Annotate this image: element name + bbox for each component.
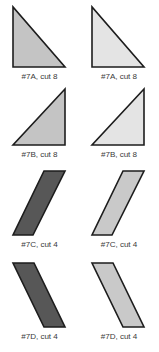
- shape-7a-light: [91, 6, 147, 70]
- piece-group-7c-light: #7C, cut 4: [79, 170, 159, 250]
- right-triangle-shape: [92, 7, 144, 67]
- parallelogram-shape: [13, 171, 65, 235]
- piece-group-7a-dark: #7A, cut 8: [0, 6, 79, 82]
- right-triangle-shape: [13, 89, 65, 145]
- piece-label-7c-light: #7C, cut 4: [101, 240, 137, 250]
- piece-label-7a-dark: #7A, cut 8: [22, 72, 58, 82]
- shape-7d-dark: [12, 262, 68, 330]
- right-triangle-shape: [13, 7, 65, 67]
- piece-label-7a-light: #7A, cut 8: [101, 72, 137, 82]
- piece-label-7d-light: #7D, cut 4: [101, 332, 137, 342]
- parallelogram-shape: [92, 171, 144, 235]
- parallelogram-shape: [92, 263, 144, 327]
- right-triangle-shape: [92, 89, 144, 145]
- shape-7b-light: [91, 88, 147, 148]
- shape-7a-dark: [12, 6, 68, 70]
- piece-group-7c-dark: #7C, cut 4: [0, 170, 79, 250]
- piece-label-7d-dark: #7D, cut 4: [21, 332, 57, 342]
- piece-label-7b-light: #7B, cut 8: [101, 150, 137, 160]
- piece-group-7d-light: #7D, cut 4: [79, 262, 159, 342]
- piece-group-7a-light: #7A, cut 8: [79, 6, 159, 82]
- shape-7c-dark: [12, 170, 68, 238]
- shape-7b-dark: [12, 88, 68, 148]
- shape-7d-light: [91, 262, 147, 330]
- piece-group-7b-light: #7B, cut 8: [79, 88, 159, 160]
- piece-label-7c-dark: #7C, cut 4: [21, 240, 57, 250]
- parallelogram-shape: [13, 263, 65, 327]
- cutting-diagram-sheet: #7A, cut 8 #7A, cut 8 #7B, cut 8 #7B, cu…: [0, 0, 159, 352]
- piece-group-7b-dark: #7B, cut 8: [0, 88, 79, 160]
- shape-7c-light: [91, 170, 147, 238]
- piece-label-7b-dark: #7B, cut 8: [22, 150, 58, 160]
- piece-group-7d-dark: #7D, cut 4: [0, 262, 79, 342]
